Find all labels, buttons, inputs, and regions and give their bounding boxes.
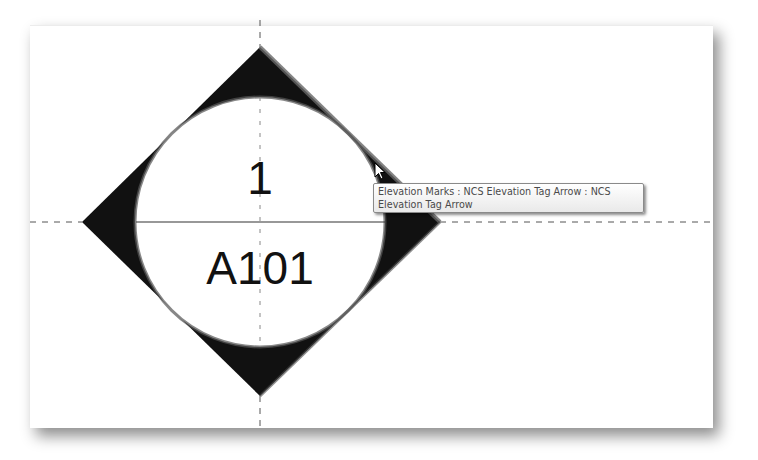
tooltip-line-1: Elevation Marks : NCS Elevation Tag Arro… [378, 185, 639, 198]
element-tooltip: Elevation Marks : NCS Elevation Tag Arro… [373, 183, 644, 213]
sheet-number: A101 [180, 240, 340, 296]
drawing-canvas[interactable] [0, 0, 758, 460]
tooltip-line-2: Elevation Tag Arrow [378, 198, 639, 211]
detail-number: 1 [220, 152, 300, 204]
